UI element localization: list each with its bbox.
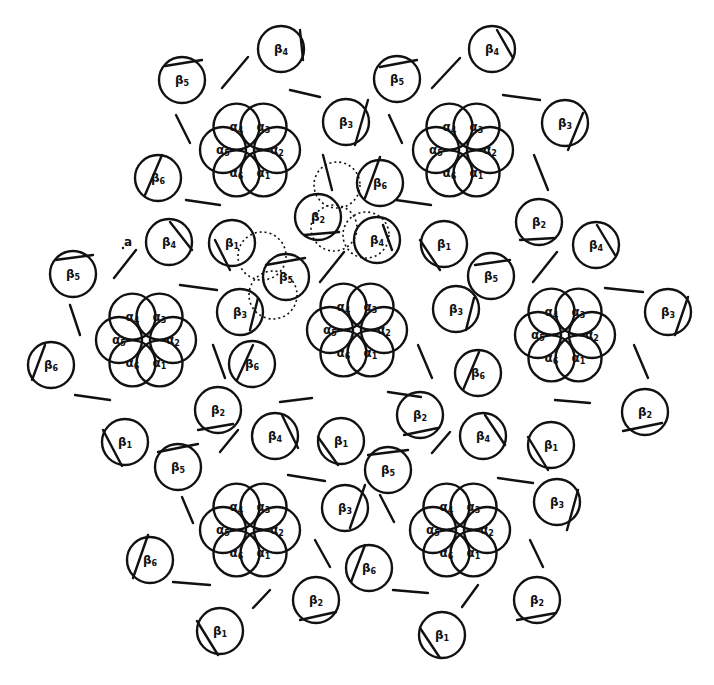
connector-bar bbox=[432, 58, 460, 88]
beta-subunit-label: β2 bbox=[532, 215, 546, 230]
connector-bar bbox=[530, 540, 543, 567]
beta-subunit: β3 bbox=[645, 289, 691, 335]
connector-bar bbox=[396, 200, 431, 205]
alpha-rosette: α1α2α3α4α5α6 bbox=[413, 104, 513, 197]
beta-subunit: β4 bbox=[252, 413, 298, 459]
beta-subunit-label: β4 bbox=[485, 42, 500, 57]
connector-bar bbox=[503, 95, 540, 100]
beta-subunit: β6 bbox=[357, 157, 403, 206]
beta-subunit-label: β1 bbox=[225, 236, 240, 251]
beta-subunit: β2 bbox=[195, 387, 241, 433]
beta-chord bbox=[380, 60, 417, 67]
beta-subunit-label: β3 bbox=[550, 495, 564, 510]
beta-subunit-label: β3 bbox=[339, 115, 353, 130]
beta-subunit-label: β3 bbox=[661, 305, 675, 320]
connector-bar bbox=[70, 305, 80, 335]
beta-subunit-label: β2 bbox=[311, 210, 325, 225]
beta-subunit: β2 bbox=[295, 194, 341, 240]
beta-subunit: β6 bbox=[135, 155, 181, 201]
beta-subunit: β3 bbox=[323, 99, 369, 145]
beta-subunit: β6 bbox=[229, 341, 275, 387]
beta-subunit: β4 bbox=[573, 222, 619, 268]
connector-bar bbox=[605, 288, 643, 292]
beta-subunit: β5 bbox=[50, 251, 96, 297]
beta-subunit-label: β6 bbox=[471, 366, 486, 381]
dotted-circle bbox=[314, 162, 360, 208]
beta-subunit: β1 bbox=[209, 220, 255, 270]
beta-subunit-label: β3 bbox=[558, 116, 572, 131]
beta-subunit-label: β2 bbox=[211, 403, 225, 418]
connector-bar bbox=[186, 200, 220, 205]
beta-subunit: β2 bbox=[516, 199, 562, 245]
beta-chord bbox=[520, 238, 555, 240]
connector-bar bbox=[432, 432, 450, 453]
beta-subunit-label: β6 bbox=[151, 171, 166, 186]
beta-subunit: β6 bbox=[28, 342, 74, 388]
connector-bar bbox=[533, 252, 557, 282]
beta-subunit: β1 bbox=[419, 612, 465, 658]
beta-subunit: β4 bbox=[146, 219, 192, 265]
connector-bar bbox=[75, 395, 110, 400]
beta-subunit: β1 bbox=[102, 419, 148, 466]
beta-subunit-label: β4 bbox=[162, 235, 177, 250]
beta-subunit: β5 bbox=[468, 253, 514, 299]
alpha-rosette: α1α2α3α4α5α6 bbox=[200, 104, 300, 197]
beta-subunit: β2 bbox=[397, 392, 443, 438]
connector-bar bbox=[315, 540, 330, 567]
connector-bar bbox=[173, 582, 210, 585]
beta-subunit: β4 bbox=[460, 413, 506, 459]
beta-subunit-label: β5 bbox=[66, 267, 81, 282]
beta-subunit-label: β3 bbox=[449, 302, 463, 317]
beta-subunit-label: β4 bbox=[589, 238, 604, 253]
beta-subunit-label: β5 bbox=[381, 463, 396, 478]
beta-subunit: β5 bbox=[155, 444, 201, 490]
connector-bar bbox=[462, 585, 478, 607]
connector-bar bbox=[280, 398, 312, 402]
beta-subunit: β4 bbox=[258, 26, 304, 72]
beta-subunit-label: β4 bbox=[476, 429, 491, 444]
beta-subunit-label: β6 bbox=[44, 358, 59, 373]
beta-subunit-label: β6 bbox=[362, 561, 377, 576]
lattice-canvas: α1α2α3α4α5α6α1α2α3α4α5α6α1α2α3α4α5α6α1α2… bbox=[0, 0, 714, 685]
beta-subunit-label: β4 bbox=[370, 233, 385, 248]
alpha-rosette: α1α2α3α4α5α6 bbox=[515, 289, 615, 382]
beta-chord bbox=[250, 298, 258, 330]
connector-bar bbox=[389, 115, 402, 143]
connector-bar bbox=[213, 345, 225, 378]
connector-bar bbox=[393, 590, 428, 593]
beta-subunit: β6 bbox=[127, 535, 173, 583]
connector-bar bbox=[222, 57, 248, 88]
beta-subunit-label: β1 bbox=[435, 628, 450, 643]
connector-bar bbox=[253, 590, 270, 608]
beta-chord bbox=[383, 225, 392, 250]
beta-subunit-label: β6 bbox=[143, 553, 158, 568]
connector-bar bbox=[534, 155, 548, 190]
connector-bar bbox=[176, 115, 190, 143]
beta-subunit: β5 bbox=[263, 254, 309, 300]
connector-bar bbox=[555, 400, 590, 403]
connector-bar bbox=[320, 252, 344, 282]
beta-subunit-label: β1 bbox=[118, 435, 133, 450]
beta-subunit-label: β6 bbox=[245, 357, 260, 372]
connector-bar bbox=[380, 495, 394, 522]
beta-subunit-label: β2 bbox=[530, 593, 544, 608]
beta-subunit: β6 bbox=[346, 545, 392, 591]
beta-subunit-label: β5 bbox=[484, 269, 499, 284]
beta-subunit-label: β3 bbox=[233, 305, 247, 320]
beta-subunit: β1 bbox=[197, 608, 243, 655]
beta-subunit-label: β6 bbox=[373, 176, 388, 191]
beta-subunit: β1 bbox=[420, 221, 467, 270]
beta-chord bbox=[567, 490, 578, 530]
connector-bar bbox=[288, 475, 325, 481]
beta-subunit: β3 bbox=[534, 479, 580, 530]
beta-subunit-label: β2 bbox=[413, 408, 427, 423]
beta-subunit-label: β2 bbox=[638, 405, 652, 420]
beta-subunit-label: β5 bbox=[279, 270, 294, 285]
connector-bar bbox=[182, 497, 193, 523]
beta-subunit: β1 bbox=[318, 418, 364, 465]
beta-subunit: β3 bbox=[322, 485, 368, 531]
beta-subunit-label: β1 bbox=[544, 438, 559, 453]
beta-subunit-label: β1 bbox=[437, 237, 452, 252]
beta-subunit: β4 bbox=[354, 217, 400, 263]
beta-subunit: β5 bbox=[159, 57, 205, 103]
